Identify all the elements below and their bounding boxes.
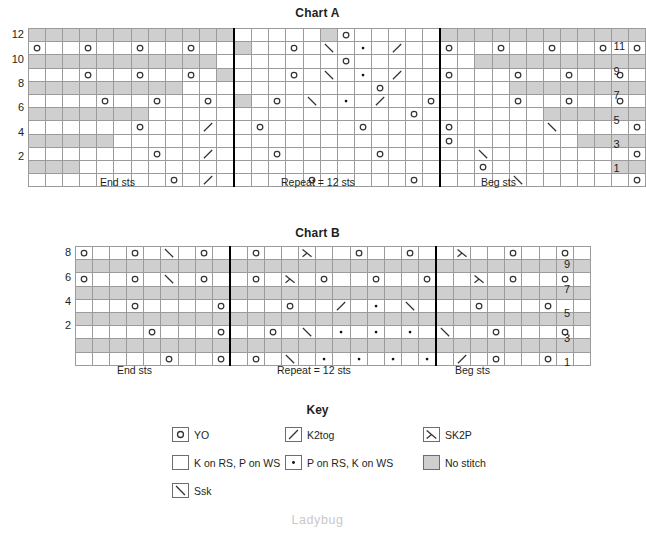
cell-knit[interactable] — [354, 108, 371, 121]
cell-ssk[interactable] — [320, 42, 337, 55]
cell-knit[interactable] — [458, 134, 475, 147]
cell-yo[interactable] — [423, 94, 441, 107]
cell-knit[interactable] — [29, 94, 46, 107]
cell-no-stitch[interactable] — [46, 29, 63, 42]
cell-knit[interactable] — [303, 68, 320, 81]
cell-no-stitch[interactable] — [247, 260, 264, 273]
cell-knit[interactable] — [161, 299, 178, 312]
cell-no-stitch[interactable] — [384, 339, 401, 352]
cell-no-stitch[interactable] — [543, 29, 560, 42]
cell-no-stitch[interactable] — [539, 339, 556, 352]
cell-no-stitch[interactable] — [492, 29, 509, 42]
cell-no-stitch[interactable] — [161, 286, 178, 299]
cell-knit[interactable] — [471, 247, 488, 260]
cell-purl[interactable] — [367, 326, 384, 339]
cell-knit[interactable] — [148, 121, 165, 134]
cell-yo[interactable] — [440, 134, 458, 147]
cell-knit[interactable] — [505, 299, 522, 312]
cell-knit[interactable] — [388, 134, 405, 147]
cell-no-stitch[interactable] — [63, 160, 80, 173]
cell-knit[interactable] — [406, 29, 423, 42]
cell-no-stitch[interactable] — [148, 29, 165, 42]
cell-no-stitch[interactable] — [63, 55, 80, 68]
cell-knit[interactable] — [269, 121, 286, 134]
cell-no-stitch[interactable] — [595, 29, 612, 42]
cell-knit[interactable] — [161, 326, 178, 339]
cell-no-stitch[interactable] — [526, 55, 543, 68]
cell-yo[interactable] — [629, 42, 646, 55]
cell-no-stitch[interactable] — [629, 108, 646, 121]
cell-no-stitch[interactable] — [505, 312, 522, 325]
cell-knit[interactable] — [199, 81, 216, 94]
cell-no-stitch[interactable] — [247, 339, 264, 352]
cell-no-stitch[interactable] — [488, 286, 505, 299]
cell-no-stitch[interactable] — [217, 68, 235, 81]
cell-knit[interactable] — [282, 247, 299, 260]
cell-knit[interactable] — [212, 247, 230, 260]
cell-knit[interactable] — [337, 160, 354, 173]
cell-knit[interactable] — [543, 94, 560, 107]
cell-knit[interactable] — [265, 247, 282, 260]
cell-knit[interactable] — [333, 247, 350, 260]
cell-knit[interactable] — [401, 273, 418, 286]
cell-no-stitch[interactable] — [131, 29, 148, 42]
chart-b-grid[interactable] — [75, 246, 591, 366]
cell-no-stitch[interactable] — [595, 81, 612, 94]
cell-no-stitch[interactable] — [114, 55, 131, 68]
cell-purl[interactable] — [354, 68, 371, 81]
cell-knit[interactable] — [418, 326, 436, 339]
cell-yo[interactable] — [195, 273, 212, 286]
cell-knit[interactable] — [178, 247, 195, 260]
cell-knit[interactable] — [286, 29, 303, 42]
cell-yo[interactable] — [440, 121, 458, 134]
cell-no-stitch[interactable] — [234, 42, 252, 55]
cell-yo[interactable] — [560, 94, 577, 107]
cell-no-stitch[interactable] — [333, 312, 350, 325]
cell-no-stitch[interactable] — [471, 286, 488, 299]
cell-knit[interactable] — [269, 29, 286, 42]
cell-no-stitch[interactable] — [505, 339, 522, 352]
cell-no-stitch[interactable] — [458, 29, 475, 42]
cell-no-stitch[interactable] — [29, 134, 46, 147]
cell-yo[interactable] — [131, 42, 148, 55]
cell-no-stitch[interactable] — [76, 286, 93, 299]
cell-knit[interactable] — [595, 147, 612, 160]
cell-no-stitch[interactable] — [543, 81, 560, 94]
cell-no-stitch[interactable] — [144, 312, 161, 325]
cell-no-stitch[interactable] — [230, 312, 248, 325]
cell-no-stitch[interactable] — [488, 312, 505, 325]
cell-knit[interactable] — [337, 147, 354, 160]
cell-knit[interactable] — [440, 55, 458, 68]
cell-no-stitch[interactable] — [212, 312, 230, 325]
cell-yo[interactable] — [199, 94, 216, 107]
cell-knit[interactable] — [629, 68, 646, 81]
cell-no-stitch[interactable] — [316, 260, 333, 273]
cell-no-stitch[interactable] — [509, 55, 526, 68]
cell-yo[interactable] — [127, 247, 144, 260]
cell-no-stitch[interactable] — [97, 81, 114, 94]
cell-no-stitch[interactable] — [114, 29, 131, 42]
cell-knit[interactable] — [131, 94, 148, 107]
cell-no-stitch[interactable] — [165, 29, 182, 42]
cell-knit[interactable] — [127, 326, 144, 339]
cell-knit[interactable] — [230, 247, 248, 260]
cell-knit[interactable] — [199, 134, 216, 147]
cell-no-stitch[interactable] — [29, 81, 46, 94]
cell-yo[interactable] — [539, 299, 556, 312]
cell-knit[interactable] — [522, 326, 539, 339]
cell-no-stitch[interactable] — [46, 134, 63, 147]
cell-no-stitch[interactable] — [110, 312, 127, 325]
cell-knit[interactable] — [303, 160, 320, 173]
cell-knit[interactable] — [93, 299, 110, 312]
cell-sk2p[interactable] — [282, 273, 299, 286]
cell-knit[interactable] — [217, 147, 235, 160]
cell-knit[interactable] — [265, 273, 282, 286]
cell-knit[interactable] — [131, 147, 148, 160]
cell-knit[interactable] — [354, 134, 371, 147]
cell-no-stitch[interactable] — [522, 286, 539, 299]
cell-no-stitch[interactable] — [299, 260, 316, 273]
cell-knit[interactable] — [578, 68, 595, 81]
cell-ssk[interactable] — [161, 273, 178, 286]
cell-knit[interactable] — [526, 121, 543, 134]
chart-b-table[interactable] — [75, 246, 591, 366]
